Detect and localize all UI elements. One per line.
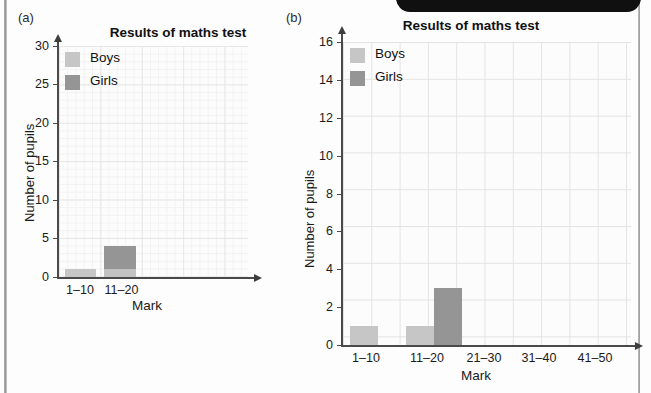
chart-b-ytick xyxy=(337,156,342,157)
chart-b-ytick-label: 0 xyxy=(304,338,333,352)
chart-a-plot-area xyxy=(59,46,248,277)
chart-a-bar-boys-11-20 xyxy=(104,269,136,277)
chart-b-xtick-label: 1–10 xyxy=(340,351,392,365)
chart-a-ytick xyxy=(53,123,58,124)
chart-a-x-axis-arrow xyxy=(254,274,262,282)
chart-a-bar-boys-1-10 xyxy=(65,269,96,277)
chart-b-ytick-label: 12 xyxy=(304,111,333,125)
legend-swatch-girls-icon xyxy=(65,75,80,90)
chart-a-y-axis-arrow xyxy=(54,34,62,42)
chart-a-ytick-label: 20 xyxy=(20,116,49,130)
chart-a-ytick xyxy=(53,84,58,85)
panel-a-letter: (a) xyxy=(18,10,34,25)
legend-swatch-girls-icon xyxy=(350,71,365,86)
chart-a-ytick-label: 30 xyxy=(20,39,49,53)
chart-a-title: Results of maths test xyxy=(78,25,278,40)
chart-b-ytick xyxy=(337,307,342,308)
chart-b-ytick-label: 6 xyxy=(304,224,333,238)
chart-b-ytick-label: 16 xyxy=(304,35,333,49)
chart-b-xtick-label: 31–40 xyxy=(510,351,568,365)
legend-swatch-boys-icon xyxy=(350,48,365,63)
chart-a-x-axis xyxy=(57,277,255,279)
chart-a-ytick-label: 15 xyxy=(20,154,49,168)
chart-b-bar-boys-11-20 xyxy=(406,326,434,345)
chart-b-ytick xyxy=(337,42,342,43)
chart-b-ytick xyxy=(337,194,342,195)
chart-b-ytick-label: 2 xyxy=(304,300,333,314)
chart-b-ytick-label: 8 xyxy=(304,187,333,201)
chart-b: (b) Results of maths test Number of pupi… xyxy=(286,0,651,393)
chart-b-ytick-label: 4 xyxy=(304,262,333,276)
chart-b-xtick-label: 41–50 xyxy=(566,351,624,365)
chart-b-ytick xyxy=(337,269,342,270)
legend-swatch-boys-icon xyxy=(65,52,80,67)
chart-b-legend-label-boys: Boys xyxy=(375,46,405,61)
chart-b-y-axis-arrow xyxy=(338,26,346,34)
chart-a-legend-label-girls: Girls xyxy=(90,73,118,88)
chart-b-bar-boys-1-10 xyxy=(350,326,378,345)
chart-b-ytick-label: 10 xyxy=(304,149,333,163)
chart-b-ytick xyxy=(337,345,342,346)
chart-b-x-axis xyxy=(341,345,636,347)
chart-a-xlabel: Mark xyxy=(132,298,162,313)
chart-b-xlabel: Mark xyxy=(461,368,491,383)
chart-a-ytick-label: 10 xyxy=(20,193,49,207)
panel-b-letter: (b) xyxy=(286,10,302,25)
chart-b-ytick xyxy=(337,231,342,232)
chart-a-ytick xyxy=(53,200,58,201)
chart-b-ytick xyxy=(337,118,342,119)
chart-b-x-axis-arrow xyxy=(635,342,643,350)
chart-a-ylabel: Number of pupils xyxy=(22,124,37,222)
chart-b-ytick-label: 14 xyxy=(304,73,333,87)
chart-b-xtick-label: 21–30 xyxy=(455,351,513,365)
chart-a-xtick-label: 11–20 xyxy=(95,283,148,297)
textbook-page: (a) Results of maths test Number of pupi… xyxy=(0,0,651,393)
chart-a-ytick xyxy=(53,161,58,162)
chart-a-ytick xyxy=(53,46,58,47)
chart-b-title: Results of maths test xyxy=(356,18,586,33)
chart-b-plot-area xyxy=(343,42,631,345)
chart-a-ytick xyxy=(53,277,58,278)
chart-a-ytick-label: 25 xyxy=(20,77,49,91)
chart-b-ylabel: Number of pupils xyxy=(302,170,317,268)
chart-a-ytick xyxy=(53,238,58,239)
chart-b-bar-girls-11-20 xyxy=(434,288,462,345)
chart-b-xtick-label: 11–20 xyxy=(398,351,456,365)
chart-a-ytick-label: 5 xyxy=(20,231,49,245)
chart-b-legend-label-girls: Girls xyxy=(375,69,403,84)
chart-a-legend-label-boys: Boys xyxy=(90,50,120,65)
chart-a: (a) Results of maths test Number of pupi… xyxy=(0,0,290,320)
chart-b-ytick xyxy=(337,80,342,81)
chart-a-ytick-label: 0 xyxy=(20,270,49,284)
